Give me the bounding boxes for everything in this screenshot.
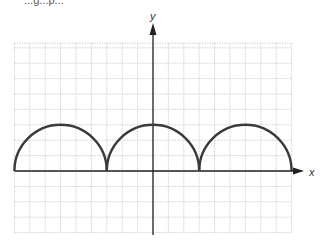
x-axis-label: x (309, 166, 315, 178)
graph (0, 0, 332, 247)
y-axis-label: y (150, 10, 156, 22)
